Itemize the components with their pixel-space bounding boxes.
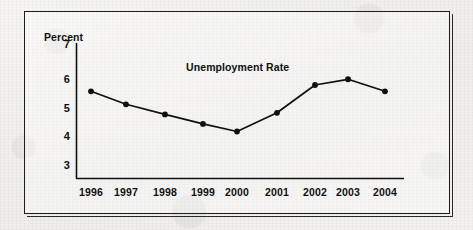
data-point-1996 — [88, 88, 94, 94]
data-point-2002 — [312, 82, 318, 88]
y-tick-label-3: 3 — [54, 159, 70, 171]
data-point-1998 — [162, 112, 168, 118]
y-tick-label-6: 6 — [54, 73, 70, 85]
data-point-1999 — [200, 121, 206, 127]
data-point-2001 — [274, 110, 280, 116]
chart-title: Unemployment Rate — [186, 61, 289, 73]
y-tick-label-4: 4 — [54, 130, 70, 142]
x-tick-label-1997: 1997 — [106, 186, 146, 198]
data-point-2004 — [382, 88, 388, 94]
series-line-unemployment-rate — [91, 79, 385, 131]
x-tick-label-2003: 2003 — [328, 186, 368, 198]
x-tick-label-1998: 1998 — [145, 186, 185, 198]
data-point-2003 — [345, 76, 351, 82]
x-tick-label-2001: 2001 — [257, 186, 297, 198]
x-tick-label-2000: 2000 — [217, 186, 257, 198]
data-point-2000 — [234, 129, 240, 135]
data-point-1997 — [123, 101, 129, 107]
x-tick-label-1996: 1996 — [71, 186, 111, 198]
x-tick-label-2004: 2004 — [365, 186, 405, 198]
y-tick-label-7: 7 — [54, 38, 70, 50]
y-tick-label-5: 5 — [54, 102, 70, 114]
chart-page: Percent Unemployment Rate 7 6 5 4 3 1996… — [0, 0, 473, 230]
